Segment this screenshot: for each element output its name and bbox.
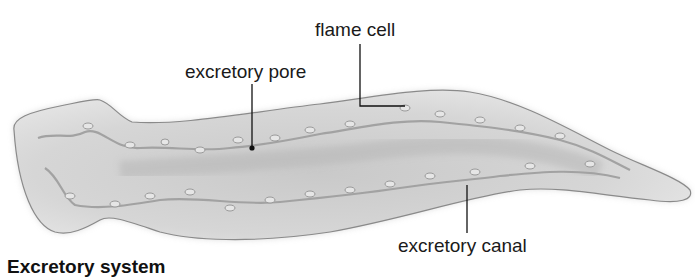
excretory-system-diagram: flame cell excretory pore excretory cana…	[0, 0, 695, 277]
excretory-pore-label: excretory pore	[185, 62, 306, 81]
excretory-pore-dot	[249, 145, 254, 150]
flame-cell-label: flame cell	[315, 20, 395, 39]
planarian-illustration	[0, 0, 695, 277]
excretory-canal-label: excretory canal	[398, 236, 527, 255]
figure-caption: Excretory system	[7, 257, 165, 276]
